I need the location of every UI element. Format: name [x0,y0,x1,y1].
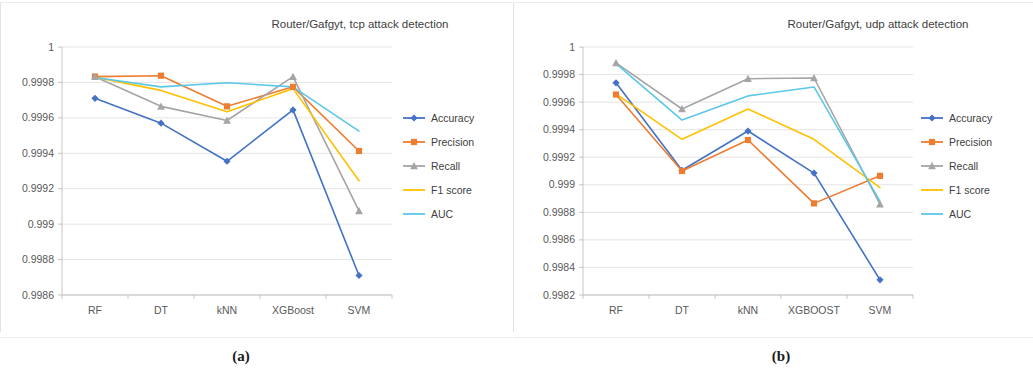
x-axis-category-label: SVM [869,304,892,316]
data-point-recall [876,200,884,207]
legend-label: AUC [949,208,972,220]
x-axis-category-label: XGBOOST [788,304,841,316]
legend-label: Accuracy [949,112,993,124]
legend-entry-precision[interactable]: Precision [403,136,474,148]
data-point-precision [356,148,362,154]
y-axis-tick-label: 0.9986 [22,289,54,301]
legend-entry-f1-score[interactable]: F1 score [921,184,990,196]
chart-title: Router/Gafgyt, udp attack detection [788,18,969,30]
line-chart-tcp-attack-detection: Router/Gafgyt, tcp attack detection0.998… [0,0,512,340]
x-axis-category-label: DT [154,304,169,316]
data-point-precision [158,73,164,79]
legend-marker [929,139,935,145]
y-axis-tick-label: 0.9984 [543,261,575,273]
series-line-recall [95,77,359,211]
subfigure-caption-b: (b) [721,348,841,365]
legend-entry-recall[interactable]: Recall [921,160,978,172]
panel-a-left-border [0,2,1,332]
data-point-recall [289,73,297,80]
y-axis-tick-label: 0.9996 [543,96,575,108]
legend-marker [410,114,417,121]
legend-label: F1 score [949,184,990,196]
y-axis-tick-label: 0.9988 [543,206,575,218]
y-axis-tick-label: 0.999 [549,178,575,190]
legend-label: Recall [431,160,460,172]
line-chart-udp-attack-detection: Router/Gafgyt, udp attack detection0.998… [513,0,1033,340]
legend-entry-accuracy[interactable]: Accuracy [403,112,475,124]
x-axis-category-label: kNN [738,304,758,316]
y-axis-tick-label: 0.9986 [543,233,575,245]
y-axis-tick-label: 0.9994 [543,123,575,135]
panel-b-bottom-border [513,337,1033,338]
y-axis-tick-label: 0.9982 [543,289,575,301]
x-axis-category-label: RF [609,304,623,316]
y-axis-tick-label: 0.9988 [22,253,54,265]
x-axis-category-label: kNN [217,304,237,316]
data-point-precision [679,168,685,174]
y-axis-tick-label: 1 [569,41,575,53]
chart-panel-b: Router/Gafgyt, udp attack detection0.998… [513,0,1033,340]
legend-marker [928,114,935,121]
figure-container: Router/Gafgyt, tcp attack detection0.998… [0,0,1033,384]
x-axis-category-label: DT [675,304,690,316]
y-axis-tick-label: 0.9998 [543,68,575,80]
data-point-precision [290,84,296,90]
data-point-precision [877,173,883,179]
x-axis-category-label: RF [88,304,102,316]
data-point-accuracy [355,272,362,279]
caption-row: (a) (b) [0,340,1033,384]
legend-entry-auc[interactable]: AUC [403,208,454,220]
legend-label: F1 score [431,184,472,196]
y-axis-tick-label: 0.9996 [22,111,54,123]
legend-entry-auc[interactable]: AUC [921,208,972,220]
series-line-accuracy [616,83,880,280]
data-point-accuracy [91,95,98,102]
legend-label: Accuracy [431,112,475,124]
data-point-precision [613,91,619,97]
data-point-recall [612,59,620,66]
x-axis-category-label: SVM [348,304,371,316]
y-axis-tick-label: 0.9998 [22,76,54,88]
y-axis-tick-label: 0.9992 [543,151,575,163]
x-axis-category-label: XGBoost [272,304,314,316]
data-point-precision [811,200,817,206]
data-point-precision [745,137,751,143]
panel-b-left-border [513,2,514,332]
y-axis-tick-label: 0.9992 [22,182,54,194]
panel-a-top-border [0,2,512,3]
data-point-recall [157,102,165,109]
legend-label: Recall [949,160,978,172]
legend-entry-f1-score[interactable]: F1 score [403,184,472,196]
legend-entry-recall[interactable]: Recall [403,160,460,172]
legend-label: AUC [431,208,454,220]
chart-title: Router/Gafgyt, tcp attack detection [271,18,448,30]
legend-label: Precision [431,136,474,148]
legend-marker [411,139,417,145]
legend-label: Precision [949,136,992,148]
y-axis-tick-label: 1 [48,41,54,53]
subfigure-caption-a: (a) [181,348,301,365]
legend-entry-accuracy[interactable]: Accuracy [921,112,993,124]
data-point-accuracy [876,276,883,283]
panel-a-bottom-border [0,337,512,338]
chart-panel-a: Router/Gafgyt, tcp attack detection0.998… [0,0,512,340]
panel-b-top-border [513,2,1033,3]
series-line-precision [616,95,880,204]
legend-entry-precision[interactable]: Precision [921,136,992,148]
data-point-recall [355,207,363,214]
data-point-accuracy [157,120,164,127]
data-point-precision [224,103,230,109]
y-axis-tick-label: 0.999 [28,218,54,230]
y-axis-tick-label: 0.9994 [22,147,54,159]
